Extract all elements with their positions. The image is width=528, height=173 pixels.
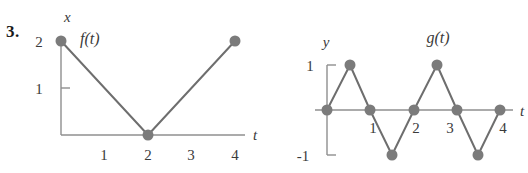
x-axis-label: t [253, 127, 258, 143]
curve-label-f: f(t) [80, 30, 100, 48]
plot-f-of-t: x t f(t) 2 1 1 2 3 4 [0, 0, 270, 173]
data-point-marker [473, 150, 484, 161]
x-tick-label-2: 2 [144, 147, 152, 163]
y-tick-label-1: 1 [306, 58, 314, 74]
data-point-marker [230, 36, 241, 47]
x-axis-label: t [520, 103, 525, 119]
y-axis-label: y [321, 34, 330, 50]
plot-f-of-t-svg: x t f(t) 2 1 1 2 3 4 [0, 0, 270, 173]
data-point-marker [56, 36, 67, 47]
data-point-marker [387, 150, 398, 161]
x-tick-label-1: 1 [100, 147, 108, 163]
x-tick-label-4: 4 [231, 147, 239, 163]
data-point-marker [432, 60, 443, 71]
data-point-marker [345, 60, 356, 71]
figure-container: 3. x t f(t) 2 1 1 2 [0, 0, 528, 173]
data-point-marker [409, 105, 420, 116]
curve-label-g: g(t) [426, 29, 449, 47]
y-axis-label: x [63, 9, 71, 25]
data-point-marker [495, 105, 506, 116]
data-point-marker [143, 130, 154, 141]
curve-f [61, 41, 235, 135]
x-tick-label-3: 3 [446, 120, 454, 136]
data-point-marker [452, 105, 463, 116]
data-point-marker [322, 105, 333, 116]
plot-g-of-t: y t g(t) 1 -1 1 2 3 4 [270, 0, 528, 173]
x-tick-label-3: 3 [187, 147, 195, 163]
data-point-marker [365, 105, 376, 116]
y-tick-label-neg1: -1 [297, 148, 310, 164]
y-tick-label-2: 2 [35, 34, 43, 50]
y-tick-label-1: 1 [35, 81, 43, 97]
x-tick-label-4: 4 [499, 120, 507, 136]
x-tick-label-2: 2 [412, 120, 420, 136]
plot-g-of-t-svg: y t g(t) 1 -1 1 2 3 4 [270, 0, 528, 173]
x-tick-label-1: 1 [369, 120, 377, 136]
